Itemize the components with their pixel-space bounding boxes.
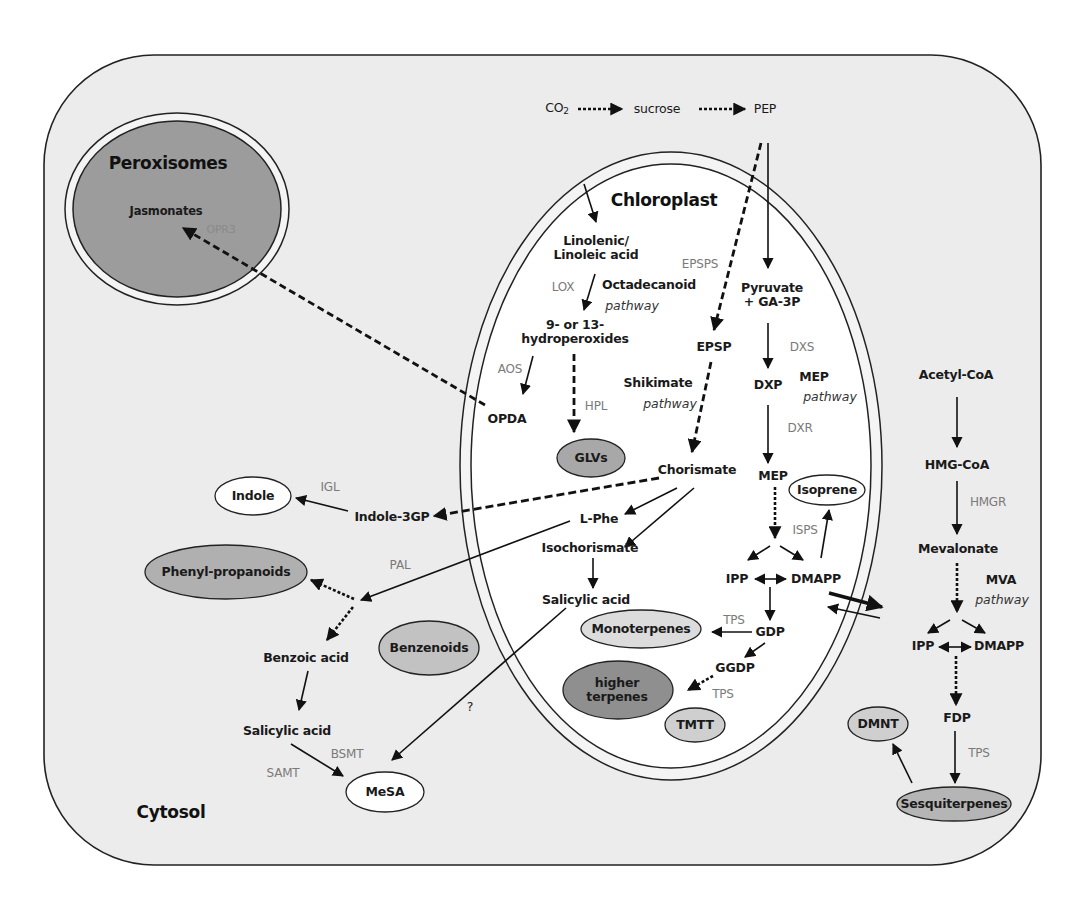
salicylic-acid-chloroplast-label: Salicylic acid [542, 593, 630, 607]
octadecanoid-label: Octadecanoid [602, 278, 696, 292]
higher-terpenes-label: higher terpenes [586, 676, 647, 705]
hmgr-enzyme: HMGR [970, 495, 1006, 509]
bsmt-enzyme: BSMT [331, 747, 364, 761]
l-phe-label: L-Phe [580, 512, 619, 526]
epsp-label: EPSP [696, 340, 731, 354]
tps-ggdp-enzyme: TPS [712, 687, 734, 701]
cytosol-title: Cytosol [137, 802, 206, 822]
dmapp-chloroplast-label: DMAPP [791, 572, 841, 586]
samt-enzyme: SAMT [267, 766, 300, 780]
sucrose-label: sucrose [634, 102, 681, 116]
chorismate-label: Chorismate [658, 463, 736, 477]
monoterpenes-label: Monoterpenes [592, 622, 691, 636]
acetyl-coa-label: Acetyl-CoA [919, 368, 994, 382]
shikimate-pathway-label: pathway [643, 396, 697, 411]
ipp-chloroplast-label: IPP [726, 572, 748, 586]
isps-enzyme: ISPS [792, 523, 817, 537]
indole-3gp-label: Indole-3GP [354, 510, 429, 524]
hmg-coa-label: HMG-CoA [925, 458, 989, 472]
fdp-label: FDP [943, 711, 970, 725]
igl-enzyme: IGL [321, 480, 340, 494]
ggdp-label: GGDP [715, 661, 754, 675]
opda-label: OPDA [487, 412, 526, 426]
indole-label: Indole [232, 489, 275, 503]
isoprene-label: Isoprene [797, 483, 857, 497]
pep-label: PEP [754, 102, 776, 116]
dmapp-cytosol-label: DMAPP [974, 639, 1024, 653]
mva-pathway-label: pathway [975, 592, 1029, 607]
mesa-label: MeSA [366, 785, 405, 799]
benzenoids-label: Benzenoids [390, 641, 469, 655]
dmnt-label: DMNT [857, 717, 898, 731]
hydroperoxides-label: 9- or 13- hydroperoxides [521, 318, 628, 347]
chloroplast-title: Chloroplast [611, 190, 718, 210]
pal-enzyme: PAL [390, 558, 411, 572]
isochorismate-label: Isochorismate [542, 541, 639, 555]
mva-pathway-title: MVA [986, 573, 1016, 587]
hpl-enzyme: HPL [585, 399, 607, 413]
co2-label: CO2 [545, 101, 569, 116]
opr3-enzyme: OPR3 [206, 223, 235, 236]
salicylic-acid-cytosol-label: Salicylic acid [243, 724, 331, 738]
mep-pathway-title: MEP [799, 370, 829, 384]
ipp-cytosol-label: IPP [912, 639, 934, 653]
tmtt-label: TMTT [676, 718, 714, 732]
shikimate-label: Shikimate [624, 376, 693, 390]
gdp-label: GDP [755, 625, 784, 639]
mep-label: MEP [758, 469, 788, 483]
benzoic-acid-label: Benzoic acid [263, 651, 349, 665]
octadecanoid-pathway-label: pathway [605, 298, 659, 313]
jasmonates-label: Jasmonates [130, 205, 203, 218]
linolenic-acid-label: Linolenic/ Linoleic acid [553, 234, 638, 263]
sesquiterpenes-label: Sesquiterpenes [900, 797, 1007, 811]
aos-enzyme: AOS [498, 362, 522, 376]
unknown-step-label: ? [467, 700, 473, 714]
pathway-diagram [0, 0, 1084, 902]
tps-gdp-enzyme: TPS [723, 613, 745, 627]
pyruvate-ga3p-label: Pyruvate + GA-3P [741, 281, 803, 310]
glvs-label: GLVs [575, 451, 608, 465]
peroxisomes-title: Peroxisomes [109, 153, 228, 173]
mevalonate-label: Mevalonate [918, 542, 998, 556]
phenylpropanoids-label: Phenyl-propanoids [162, 565, 291, 579]
lox-enzyme: LOX [552, 280, 575, 294]
dxs-enzyme: DXS [790, 340, 814, 354]
mep-pathway-label: pathway [803, 389, 857, 404]
tps-fdp-enzyme: TPS [968, 746, 990, 760]
dxr-enzyme: DXR [787, 421, 812, 435]
epsps-enzyme: EPSPS [682, 257, 718, 271]
dxp-label: DXP [754, 378, 783, 392]
